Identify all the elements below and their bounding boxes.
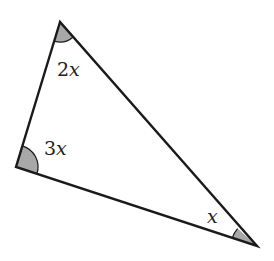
angle-label-top: 2x <box>57 58 80 80</box>
angle-label-right: x <box>207 205 218 227</box>
triangle-svg: 2x 3x x <box>0 0 274 261</box>
triangle-outline <box>16 22 257 246</box>
angle-label-left: 3x <box>44 137 67 159</box>
triangle-diagram: 2x 3x x <box>0 0 274 261</box>
